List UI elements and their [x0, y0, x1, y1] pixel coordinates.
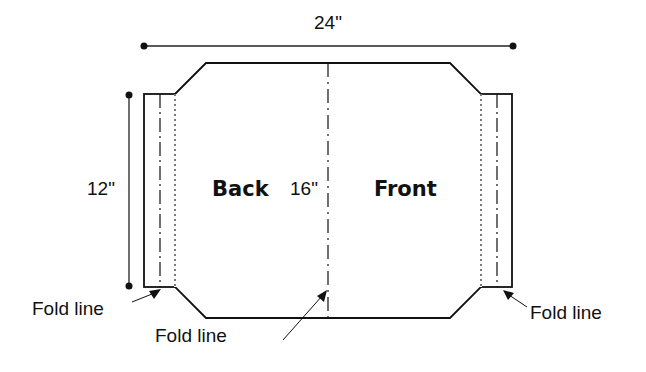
- panel-width-label: 16": [290, 178, 318, 200]
- fold-line-left-label: Fold line: [32, 298, 104, 320]
- width-label: 24": [314, 12, 342, 34]
- back-panel-label: Back: [212, 177, 269, 201]
- height-label: 12": [87, 178, 115, 200]
- fold-line-right-label: Fold line: [530, 302, 602, 324]
- arrow-left-fold: [132, 289, 161, 302]
- front-panel-label: Front: [374, 177, 437, 201]
- height-dimension-line: [126, 92, 133, 290]
- width-dimension-line: [141, 43, 517, 50]
- arrow-center-fold: [283, 290, 327, 340]
- arrow-right-fold: [503, 290, 527, 307]
- fold-line-center-label: Fold line: [155, 325, 227, 347]
